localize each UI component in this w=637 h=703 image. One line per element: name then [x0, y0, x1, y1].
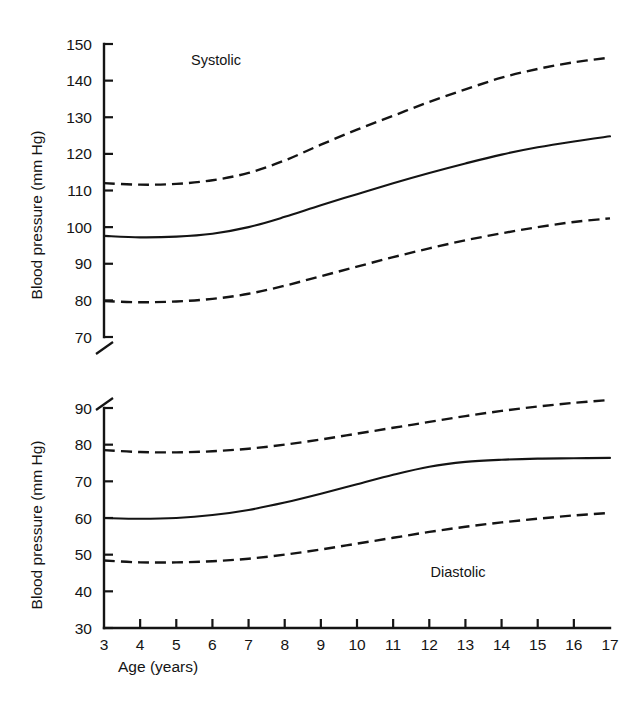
panel-diastolic: 3040506070809034567891011121314151617Dia…	[75, 400, 619, 654]
x-tick-label-7: 7	[244, 636, 253, 653]
x-tick-label-13: 13	[457, 636, 474, 653]
curve-diastolic-upper-percentile	[104, 400, 610, 452]
x-axis-title: Age (years)	[118, 658, 198, 675]
y-tick-label-diastolic-50: 50	[75, 546, 93, 563]
blood-pressure-chart-figure: Blood pressure (mm Hg) Blood pressure (m…	[0, 0, 637, 703]
chart-canvas: Blood pressure (mm Hg) Blood pressure (m…	[0, 0, 637, 703]
y-tick-label-systolic-70: 70	[75, 329, 93, 346]
x-tick-label-17: 17	[601, 636, 618, 653]
curve-systolic-upper-percentile	[104, 58, 610, 185]
x-tick-label-11: 11	[385, 636, 401, 653]
x-tick-label-6: 6	[208, 636, 217, 653]
x-tick-label-12: 12	[421, 636, 438, 653]
x-tick-label-5: 5	[172, 636, 181, 653]
y-tick-label-diastolic-70: 70	[75, 473, 93, 490]
axis-break-slash-upper	[96, 342, 113, 354]
y-tick-label-systolic-90: 90	[75, 255, 93, 272]
y-axis-title: Blood pressure (mm Hg)	[28, 131, 45, 300]
x-tick-label-3: 3	[100, 636, 109, 653]
x-tick-label-15: 15	[529, 636, 546, 653]
y-tick-label-systolic-120: 120	[66, 145, 92, 162]
x-tick-label-14: 14	[493, 636, 511, 653]
y-tick-label-diastolic-90: 90	[75, 400, 93, 417]
y-tick-label-systolic-130: 130	[66, 109, 92, 126]
panel-label-diastolic: Diastolic	[431, 564, 486, 580]
x-tick-label-9: 9	[317, 636, 326, 653]
x-tick-label-8: 8	[280, 636, 289, 653]
x-tick-label-4: 4	[136, 636, 145, 653]
y-tick-label-systolic-110: 110	[67, 182, 92, 199]
y-tick-label-diastolic-60: 60	[75, 510, 93, 527]
panel-systolic: 708090100110120130140150Systolic	[66, 36, 610, 346]
curve-systolic-median	[104, 136, 610, 237]
curve-diastolic-lower-percentile	[104, 513, 610, 563]
curve-systolic-lower-percentile	[104, 218, 610, 302]
y-tick-label-systolic-150: 150	[66, 36, 92, 53]
y-tick-label-diastolic-40: 40	[75, 583, 93, 600]
y-tick-label-diastolic-80: 80	[75, 436, 93, 453]
curve-diastolic-median	[104, 458, 610, 519]
y-tick-label-systolic-100: 100	[66, 219, 92, 236]
y-tick-label-diastolic-30: 30	[75, 620, 93, 637]
x-tick-label-10: 10	[348, 636, 366, 653]
y-tick-label-systolic-80: 80	[75, 292, 93, 309]
x-tick-label-16: 16	[565, 636, 582, 653]
axis-break-marker	[96, 342, 113, 410]
panel-label-systolic: Systolic	[191, 52, 241, 68]
y-axis-title-lower: Blood pressure (mm Hg)	[28, 441, 45, 610]
y-tick-label-systolic-140: 140	[66, 72, 92, 89]
